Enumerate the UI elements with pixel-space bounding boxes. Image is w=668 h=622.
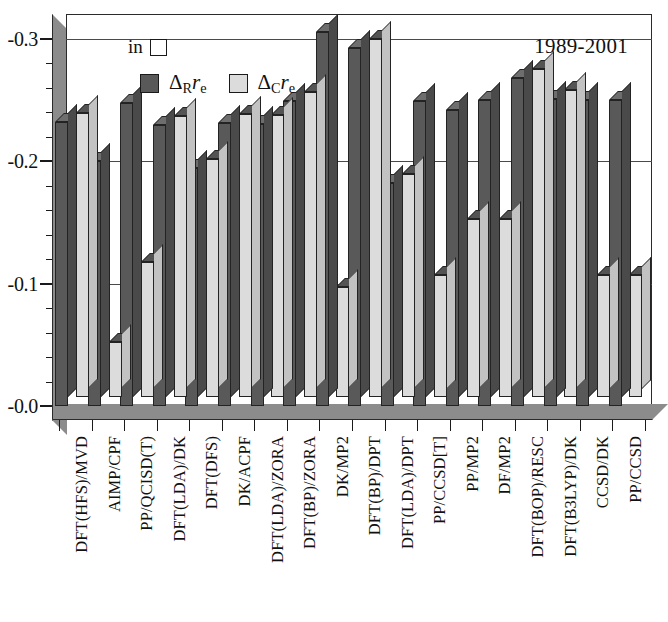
x-axis: DFT(HFS)/MVDAIMP/CPFPP/QCISD(T)DFT(LDA)/…: [52, 420, 652, 620]
bar-delta-c[interactable]: [369, 39, 382, 397]
x-tick: [254, 420, 255, 431]
x-axis-label: CCSD/DK: [593, 436, 613, 508]
x-tick: [222, 420, 223, 431]
bar-side-face: [329, 14, 338, 397]
legend-units: in: [128, 36, 167, 58]
bar-side-face: [166, 107, 175, 397]
bar-side-face: [642, 257, 651, 389]
bar-group: [410, 405, 443, 406]
bar-delta-c[interactable]: [532, 69, 545, 397]
bar-side-face: [394, 165, 403, 397]
bar-side-face: [447, 257, 456, 389]
bar-delta-c[interactable]: [467, 219, 480, 397]
y-tick-label: -0.1: [8, 272, 38, 295]
bar-delta-c[interactable]: [499, 219, 512, 397]
bar-side-face: [187, 98, 196, 388]
bar-delta-c[interactable]: [271, 115, 284, 397]
bar-group: [508, 405, 541, 406]
legend-label: ΔCre: [258, 70, 296, 97]
bar-group: [150, 405, 183, 406]
x-tick: [352, 420, 353, 431]
bar-group: [540, 405, 573, 406]
bar-front-face: [629, 275, 642, 398]
bar-front-face: [467, 219, 480, 397]
bar-delta-c[interactable]: [76, 113, 89, 397]
x-tick: [450, 420, 451, 431]
bar-group: [605, 405, 638, 406]
bar-side-face: [577, 72, 586, 388]
x-axis-label: PP/MP2: [463, 436, 483, 492]
legend-entry-delta-C[interactable]: ΔCre: [229, 70, 296, 97]
bar-delta-c[interactable]: [336, 287, 349, 397]
bar-front-face: [141, 262, 154, 397]
bar-group: [573, 405, 606, 406]
bar-delta-c[interactable]: [629, 275, 642, 398]
bar-front-face: [109, 342, 122, 397]
bar-chart-figure: -0.3-0.2-0.1-0.0 in ΔRreΔCre 1989-2001 D…: [0, 0, 668, 622]
bar-side-face: [133, 85, 142, 397]
bar-side-face: [284, 97, 293, 388]
bar-side-face: [459, 92, 468, 397]
bar-delta-c[interactable]: [564, 90, 577, 397]
bar-delta-c[interactable]: [304, 92, 317, 397]
bar-group: [443, 405, 476, 406]
x-tick: [417, 420, 418, 431]
bar-side-face: [317, 74, 326, 388]
bar-side-face: [610, 257, 619, 389]
x-tick: [189, 420, 190, 431]
x-tick: [319, 420, 320, 431]
bar-front-face: [597, 275, 610, 398]
y-axis: -0.3-0.2-0.1-0.0: [0, 0, 52, 622]
bar-side-face: [296, 83, 305, 397]
bar-side-face: [557, 81, 566, 397]
x-axis-label: PP/QCISD(T): [137, 436, 157, 531]
bar-side-face: [122, 324, 131, 388]
bar-group: [378, 405, 411, 406]
bar-group: [247, 405, 280, 406]
bar-front-face: [402, 174, 415, 397]
bar-group: [52, 405, 85, 406]
y-tick-major: [40, 283, 52, 285]
bar-group: [345, 405, 378, 406]
x-tick: [92, 420, 93, 431]
bar-delta-c[interactable]: [174, 116, 187, 397]
bar-delta-c[interactable]: [402, 174, 415, 397]
bar-side-face: [219, 141, 228, 388]
y-tick-label: -0.2: [8, 150, 38, 173]
bar-group: [117, 405, 150, 406]
bar-group: [280, 405, 313, 406]
bar-front-face: [271, 115, 284, 397]
x-tick: [580, 420, 581, 431]
bar-delta-r[interactable]: [55, 122, 68, 406]
bar-side-face: [415, 156, 424, 388]
bar-delta-c[interactable]: [239, 114, 252, 397]
bar-delta-c[interactable]: [206, 159, 219, 397]
legend-label: ΔRre: [169, 70, 207, 97]
bar-front-face: [174, 116, 187, 397]
x-tick: [612, 420, 613, 431]
bar-side-face: [89, 95, 98, 388]
legend-units-symbol-icon: [150, 39, 167, 56]
bar-side-face: [480, 201, 489, 388]
bar-side-face: [198, 150, 207, 397]
bar-group: [215, 405, 248, 406]
bar-delta-c[interactable]: [434, 275, 447, 398]
legend-entry-delta-R[interactable]: ΔRre: [140, 70, 207, 97]
bar-side-face: [622, 82, 631, 397]
x-axis-label: DFT(HFS)/MVD: [72, 436, 92, 553]
bar-front-face: [499, 219, 512, 397]
bar-side-face: [231, 105, 240, 397]
bar-delta-c[interactable]: [597, 275, 610, 398]
legend: ΔRreΔCre: [140, 70, 295, 97]
bar-front-face: [336, 287, 349, 397]
bar-front-face: [206, 159, 219, 397]
x-tick: [515, 420, 516, 431]
bar-delta-c[interactable]: [109, 342, 122, 397]
x-axis-label: DK/MP2: [333, 436, 353, 497]
y-tick-label: -0.0: [8, 395, 38, 418]
bar-delta-c[interactable]: [141, 262, 154, 397]
y-tick-major: [40, 160, 52, 162]
x-tick: [157, 420, 158, 431]
x-tick: [645, 420, 646, 431]
bar-side-face: [426, 83, 435, 397]
